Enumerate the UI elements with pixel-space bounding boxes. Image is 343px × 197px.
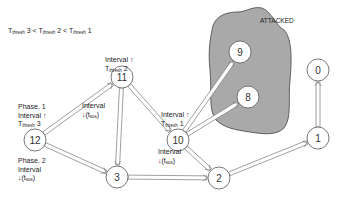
edge-11-to-3 — [115, 88, 124, 165]
node-0: 0 — [307, 59, 329, 81]
node12-phase2-annotation: Phase. 2 Interval ↓(tsos) — [18, 157, 46, 185]
node-12: 12 — [24, 129, 46, 151]
node10-top-annotation: Interval ↑ Tthresh 1 — [161, 111, 189, 130]
node-label: 9 — [237, 47, 243, 58]
node-label: 12 — [29, 135, 41, 146]
node-label: 2 — [216, 173, 222, 184]
node-9: 9 — [229, 41, 251, 63]
node11-bottom-annotation: Interval ↓(tsos) — [82, 102, 105, 121]
edge-2-to-1 — [228, 141, 307, 176]
node-label: 1 — [315, 133, 321, 144]
node12-phase1-annotation: Phase. 1 Interval ↑ Tthresh 3 — [18, 103, 46, 131]
node10-bottom-annotation: Interval ↓(tsos) — [158, 148, 181, 167]
node-8: 8 — [237, 86, 259, 108]
node-2: 2 — [208, 167, 230, 189]
node-label: 0 — [315, 65, 321, 76]
node11-top-annotation: Interval ↑ Tthresh 2 — [105, 56, 133, 75]
edge-3-to-2 — [128, 175, 207, 181]
node-label: 3 — [114, 172, 120, 183]
edge-12-to-3 — [44, 143, 107, 174]
node-1: 1 — [307, 127, 329, 149]
edge-10-to-2 — [185, 146, 212, 171]
node-3: 3 — [106, 166, 128, 188]
node-label: 10 — [172, 135, 184, 146]
node-label: 8 — [245, 92, 251, 103]
attacked-label: ATTACKED — [260, 17, 294, 26]
edge-1-to-0 — [315, 82, 321, 127]
threshold-legend: Tthresh 3 < Tthresh 2 < Tthresh 1 — [8, 27, 92, 38]
